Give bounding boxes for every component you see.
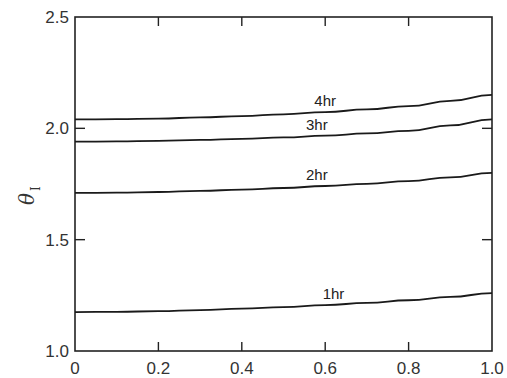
y-tick-label: 1.0 <box>45 342 69 361</box>
series-line-3hr <box>75 119 492 141</box>
x-tick-label: 0.6 <box>313 359 337 378</box>
x-axis: 00.20.40.60.81.0 <box>70 17 504 378</box>
series-line-1hr <box>75 293 492 312</box>
series-label-1hr: 1hr <box>323 285 345 302</box>
x-tick-label: 0.4 <box>230 359 254 378</box>
series-group: 1hr2hr3hr4hr <box>75 92 492 312</box>
x-tick-label: 1.0 <box>480 359 504 378</box>
series-label-4hr: 4hr <box>314 92 336 109</box>
x-tick-label: 0.2 <box>147 359 171 378</box>
y-tick-label: 2.5 <box>45 8 69 27</box>
plot-frame <box>75 17 492 351</box>
plot-border <box>75 17 492 351</box>
y-tick-label: 1.5 <box>45 231 69 250</box>
y-tick-label: 2.0 <box>45 119 69 138</box>
x-tick-label: 0 <box>70 359 79 378</box>
line-chart: 00.20.40.60.81.0 1.01.52.02.5 1hr2hr3hr4… <box>0 0 507 378</box>
series-label-3hr: 3hr <box>306 116 328 133</box>
y-axis-title-symbol: θ <box>15 193 39 205</box>
y-axis-title-subscript: I <box>29 186 43 191</box>
series-line-2hr <box>75 173 492 193</box>
series-label-2hr: 2hr <box>306 166 328 183</box>
y-axis-title: θ I <box>15 186 43 205</box>
series-line-4hr <box>75 95 492 119</box>
x-tick-label: 0.8 <box>397 359 421 378</box>
